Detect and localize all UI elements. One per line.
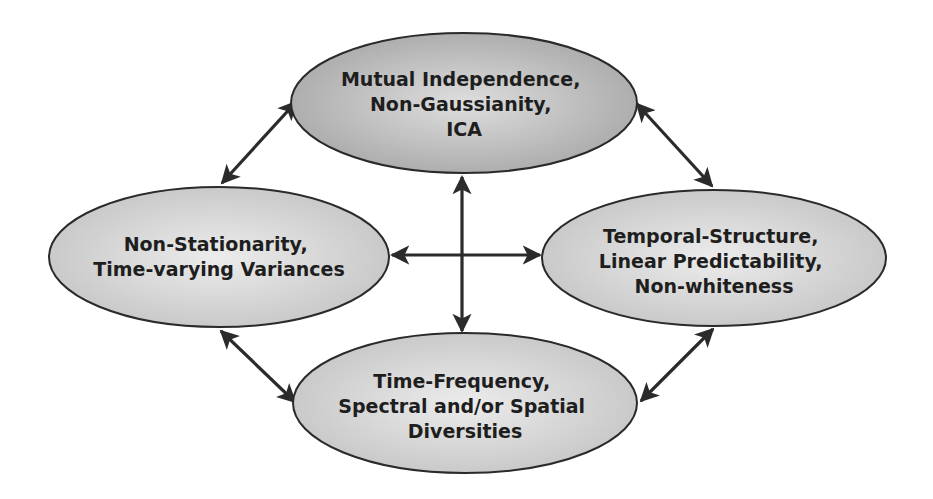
node-temporal-structure: Temporal-Structure, Linear Predictabilit… <box>542 190 886 326</box>
node-top-line-2: Non-Gaussianity, <box>370 93 552 115</box>
diagram-canvas: Mutual Independence, Non-Gaussianity, IC… <box>0 0 933 499</box>
node-bottom-line-1: Time-Frequency, <box>373 370 550 392</box>
arrow-top-left <box>222 102 296 183</box>
node-bottom-line-3: Diversities <box>408 420 523 442</box>
node-right-line-2: Linear Predictability, <box>599 250 823 272</box>
node-non-stationarity: Non-Stationarity, Time-varying Variances <box>49 187 389 327</box>
arrow-left-bottom <box>221 331 295 402</box>
node-bottom-line-2: Spectral and/or Spatial <box>338 395 585 417</box>
node-time-frequency: Time-Frequency, Spectral and/or Spatial … <box>293 333 637 473</box>
node-mutual-independence: Mutual Independence, Non-Gaussianity, IC… <box>291 33 637 173</box>
node-left-line-2: Time-varying Variances <box>93 258 344 280</box>
node-left-ellipse <box>49 187 389 327</box>
node-top-line-3: ICA <box>446 118 482 140</box>
arrow-right-bottom <box>641 329 713 401</box>
node-right-line-1: Temporal-Structure, <box>603 225 818 247</box>
arrow-top-right <box>637 104 712 186</box>
node-top-line-1: Mutual Independence, <box>341 68 580 90</box>
node-left-line-1: Non-Stationarity, <box>124 233 308 255</box>
node-right-line-3: Non-whiteness <box>635 275 794 297</box>
